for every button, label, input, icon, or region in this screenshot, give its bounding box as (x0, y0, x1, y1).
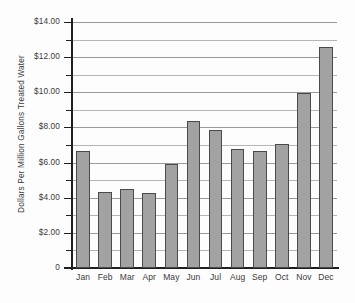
x-axis-tick-label: Mar (116, 272, 138, 282)
bar-sep (253, 151, 267, 268)
bar-nov (297, 93, 311, 268)
y-axis-tick-label: $12.00 (12, 51, 60, 61)
bar-aug (231, 149, 245, 268)
x-axis-tick-label: Jan (72, 272, 94, 282)
x-axis-tick-label: Aug (227, 272, 249, 282)
bar-mar (120, 189, 134, 268)
bar-jan (76, 151, 90, 268)
bar-oct (275, 144, 289, 268)
bar-dec (319, 47, 333, 268)
bar-jul (209, 130, 223, 268)
bar-chart: Dollars Per Million Gallons Treated Wate… (0, 0, 355, 303)
bars-group (72, 22, 337, 268)
y-axis-tick-label: 0 (12, 262, 60, 272)
x-axis-tick-label: Dec (315, 272, 337, 282)
y-axis-tick-label: $4.00 (12, 192, 60, 202)
y-axis-tick-label: $14.00 (12, 16, 60, 26)
bar-feb (98, 192, 112, 268)
x-axis-tick-label: May (160, 272, 182, 282)
x-axis-labels: JanFebMarAprMayJunJulAugSepOctNovDec (72, 272, 337, 292)
x-axis-tick-label: Feb (94, 272, 116, 282)
y-axis-tick (64, 57, 72, 58)
y-axis-tick (64, 22, 72, 23)
y-axis-tick (64, 268, 72, 269)
y-axis-tick (64, 198, 72, 199)
bar-may (165, 164, 179, 268)
y-axis-tick-label: $2.00 (12, 227, 60, 237)
x-axis-tick-label: Apr (138, 272, 160, 282)
y-axis-tick (64, 127, 72, 128)
y-axis-tick (64, 233, 72, 234)
x-axis-tick-label: Nov (293, 272, 315, 282)
x-axis-tick-label: Jun (182, 272, 204, 282)
x-axis-tick-label: Sep (249, 272, 271, 282)
y-axis-tick (64, 92, 72, 93)
y-axis-tick-label: $10.00 (12, 86, 60, 96)
y-axis-tick-label: $6.00 (12, 157, 60, 167)
x-axis-tick-label: Jul (205, 272, 227, 282)
y-axis-tick (64, 163, 72, 164)
y-axis-ticks: 0$2.00$4.00$6.00$8.00$10.00$12.00$14.00 (0, 0, 72, 303)
y-axis-tick-label: $8.00 (12, 121, 60, 131)
bar-jun (187, 121, 201, 268)
x-axis-tick-label: Oct (271, 272, 293, 282)
bar-apr (142, 193, 156, 268)
